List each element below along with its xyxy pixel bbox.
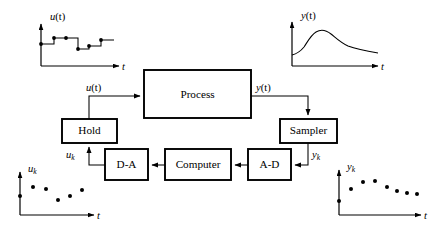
- plot-u-k-y-axis-label: uk: [28, 163, 37, 176]
- plot-u-of-t-y-axis-label: u(t): [50, 11, 66, 23]
- diagram-canvas: u(t) t y(t) t uk t: [0, 0, 445, 235]
- plot-y-of-t-curve: [292, 30, 378, 55]
- wire-sampler-to-ad: [295, 143, 308, 165]
- plot-u-of-t-x-axis-label: t: [122, 61, 126, 72]
- block-computer-label: Computer: [176, 158, 221, 170]
- plot-y-k-y-axis-label: yk: [346, 161, 356, 174]
- block-hold[interactable]: Hold: [62, 119, 117, 143]
- block-ad-label: A-D: [260, 158, 280, 170]
- plot-u-of-t: u(t) t: [39, 11, 126, 72]
- wire-hold-to-process: [89, 96, 140, 119]
- plot-y-of-t: y(t) t: [292, 10, 385, 72]
- wire-process-to-sampler: [251, 96, 308, 115]
- block-diagram-figure: u(t) t y(t) t uk t: [0, 0, 445, 235]
- block-hold-label: Hold: [78, 124, 101, 136]
- plot-y-of-t-y-axis-label: y(t): [300, 10, 316, 22]
- plot-y-k-x-axis-label: t: [424, 210, 428, 221]
- block-sampler-label: Sampler: [290, 124, 328, 136]
- block-process-label: Process: [180, 88, 214, 100]
- plot-y-k-sample-markers: [337, 179, 419, 203]
- block-ad[interactable]: A-D: [248, 149, 291, 180]
- block-computer[interactable]: Computer: [165, 149, 231, 180]
- block-da-label: D-A: [117, 158, 137, 170]
- plot-y-k: yk t: [337, 161, 428, 221]
- block-sampler[interactable]: Sampler: [280, 119, 337, 143]
- block-process[interactable]: Process: [144, 70, 251, 118]
- signal-label-y-of-t: y(t): [255, 82, 271, 94]
- signal-label-u-of-t: u(t): [86, 82, 102, 94]
- signal-label-y-k: yk: [311, 149, 321, 162]
- signal-label-u-k: uk: [66, 149, 75, 162]
- plot-u-k-sample-markers: [18, 185, 84, 202]
- plot-u-k: uk t: [18, 163, 101, 221]
- block-da[interactable]: D-A: [105, 149, 148, 180]
- plot-u-k-x-axis-label: t: [97, 210, 101, 221]
- wire-da-to-hold: [89, 147, 105, 165]
- plot-y-of-t-x-axis-label: t: [381, 61, 385, 72]
